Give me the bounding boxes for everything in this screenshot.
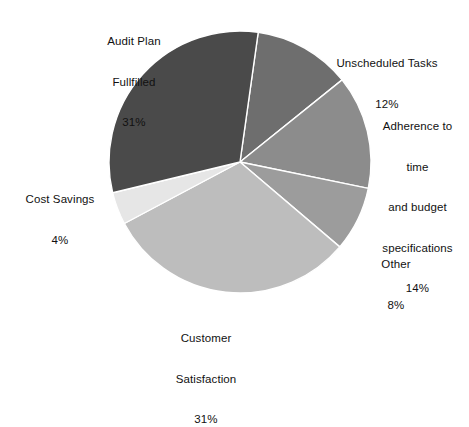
slice-value-label: 8%	[356, 299, 436, 313]
slice-label-cost-savings: Cost Savings 4%	[8, 166, 112, 274]
slice-label-line: and budget	[366, 201, 469, 215]
slice-label-line: Cost Savings	[8, 193, 112, 207]
slice-value-label: 31%	[142, 413, 270, 427]
slice-label-line: Other	[356, 258, 436, 272]
slice-label-customer-satisfaction: Customer Satisfaction 31%	[142, 305, 270, 427]
slice-label-audit-plan-fullfilled: Audit Plan Fullfilled 31%	[74, 8, 194, 157]
slice-label-line: Audit Plan	[74, 35, 194, 49]
slice-label-line: Customer	[142, 332, 270, 346]
slice-label-line: Adherence to	[366, 120, 469, 134]
slice-label-line: Unscheduled Tasks	[312, 57, 462, 71]
slice-label-line: time	[366, 161, 469, 175]
slice-value-label: 4%	[8, 234, 112, 248]
slice-label-line: Fullfilled	[74, 76, 194, 90]
slice-label-line: Satisfaction	[142, 373, 270, 387]
slice-value-label: 31%	[74, 116, 194, 130]
slice-label-other: Other 8%	[356, 231, 436, 339]
